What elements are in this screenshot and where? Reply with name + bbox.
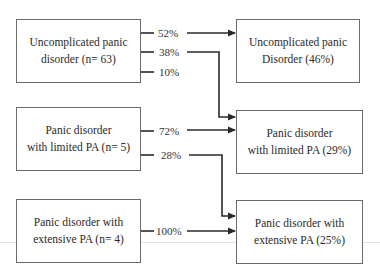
transition-label: 72% bbox=[159, 126, 179, 137]
transition-label: 38% bbox=[159, 47, 179, 58]
box-line: Disorder (46%) bbox=[249, 51, 347, 68]
transition-label: 52% bbox=[158, 28, 178, 39]
source-box-limited-pa: Panic disorder with limited PA (n= 5) bbox=[16, 107, 141, 171]
transition-label: 100% bbox=[156, 226, 182, 237]
transition-label: 28% bbox=[161, 150, 181, 161]
box-line: Uncomplicated panic bbox=[249, 34, 347, 51]
target-box-extensive-pa: Panic disorder with extensive PA (25%) bbox=[236, 200, 363, 264]
box-line: extensive PA (25%) bbox=[254, 232, 345, 249]
box-line: Panic disorder with bbox=[254, 215, 345, 232]
transition-label: 10% bbox=[159, 67, 179, 78]
source-box-uncomplicated: Uncomplicated panic disorder (n= 63) bbox=[16, 19, 141, 83]
box-line: Panic disorder bbox=[248, 125, 351, 142]
box-line: extensive PA (n= 4) bbox=[33, 231, 124, 248]
box-line: with limited PA (n= 5) bbox=[27, 139, 130, 156]
box-line: Panic disorder bbox=[27, 122, 130, 139]
target-box-uncomplicated: Uncomplicated panic Disorder (46%) bbox=[236, 19, 360, 83]
target-box-limited-pa: Panic disorder with limited PA (29%) bbox=[236, 110, 363, 174]
source-box-extensive-pa: Panic disorder with extensive PA (n= 4) bbox=[16, 199, 141, 263]
box-line: Panic disorder with bbox=[33, 214, 124, 231]
box-line: Uncomplicated panic bbox=[29, 34, 127, 51]
box-line: with limited PA (29%) bbox=[248, 142, 351, 159]
box-line: disorder (n= 63) bbox=[29, 51, 127, 68]
